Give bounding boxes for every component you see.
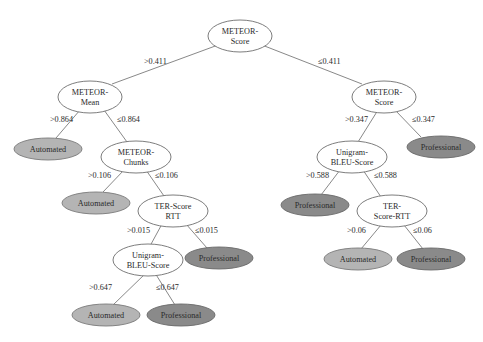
edge-label-bleur-left: >0.588	[306, 171, 329, 180]
edge-label-terr-left: >0.06	[347, 226, 366, 235]
svg-text:BLEU-Score: BLEU-Score	[127, 261, 170, 270]
leaf-professional-l3: Professional	[185, 247, 253, 269]
svg-text:Automated: Automated	[30, 145, 66, 154]
edge-label-mean-left: >0.864	[50, 115, 73, 124]
edge-label-bleur-right: ≤0.588	[374, 171, 397, 180]
leaf-automated-l4: Automated	[72, 304, 140, 326]
svg-text:Automated: Automated	[340, 255, 376, 264]
svg-text:Mean: Mean	[81, 98, 100, 107]
leaf-automated-2: Automated	[62, 192, 130, 214]
node-ter-score-rtt-right: TER- Score-RTT	[357, 195, 427, 227]
svg-text:METEOR-: METEOR-	[72, 88, 109, 97]
svg-text:BLEU-Score: BLEU-Score	[331, 158, 374, 167]
node-unigram-bleu-score-left: Unigram- BLEU-Score	[113, 244, 183, 276]
node-unigram-bleu-score-right: Unigram- BLEU-Score	[317, 141, 387, 173]
leaf-professional-l4: Professional	[147, 304, 215, 326]
svg-text:METEOR-: METEOR-	[366, 88, 403, 97]
edge-label-root-left: >0.411	[144, 57, 167, 66]
node-meteor-mean: METEOR- Mean	[58, 81, 122, 113]
svg-text:TER-Score: TER-Score	[155, 202, 192, 211]
leaf-professional-r2: Professional	[281, 194, 349, 216]
edge-label-chunks-left: >0.106	[88, 171, 111, 180]
svg-text:Professional: Professional	[161, 311, 202, 320]
svg-text:Score-RTT: Score-RTT	[374, 212, 410, 221]
leaf-professional-r1: Professional	[407, 136, 475, 158]
edge-label-terr-right: ≤0.06	[413, 226, 432, 235]
svg-text:Score: Score	[231, 37, 250, 46]
node-meteor-chunks: METEOR- Chunks	[101, 141, 171, 173]
svg-text:TER-: TER-	[383, 202, 401, 211]
edge-label-scorer-left: >0.347	[345, 115, 368, 124]
edge-label-root-right: ≤0.411	[318, 57, 341, 66]
edge-label-terl-right: ≤0.015	[195, 226, 218, 235]
node-root-meteor-score: METEOR- Score	[208, 20, 272, 52]
decision-tree-diagram: >0.411 ≤0.411 >0.864 ≤0.864 >0.106 ≤0.10…	[0, 0, 483, 342]
svg-text:Unigram-: Unigram-	[132, 251, 164, 260]
svg-text:METEOR-: METEOR-	[222, 27, 259, 36]
svg-text:Professional: Professional	[411, 255, 452, 264]
node-ter-score-rtt-left: TER-Score RTT	[138, 195, 208, 227]
leaf-professional-r4: Professional	[397, 248, 465, 270]
svg-text:Score: Score	[375, 98, 394, 107]
leaf-automated-1: Automated	[14, 138, 82, 160]
svg-text:Professional: Professional	[421, 143, 462, 152]
edge-label-mean-right: ≤0.864	[117, 115, 140, 124]
edge-label-terl-left: >0.015	[127, 226, 150, 235]
node-meteor-score-right: METEOR- Score	[352, 81, 416, 113]
edge-label-bleul-left: >0.647	[89, 283, 112, 292]
svg-text:Professional: Professional	[199, 254, 240, 263]
edge-label-bleul-right: ≤0.647	[156, 283, 179, 292]
svg-text:Unigram-: Unigram-	[336, 148, 368, 157]
svg-text:RTT: RTT	[166, 212, 181, 221]
svg-text:Professional: Professional	[295, 201, 336, 210]
svg-text:Automated: Automated	[78, 199, 114, 208]
edge-label-chunks-right: ≤0.106	[155, 171, 178, 180]
leaf-automated-r3: Automated	[324, 248, 392, 270]
svg-text:Chunks: Chunks	[123, 158, 148, 167]
svg-text:METEOR-: METEOR-	[118, 148, 155, 157]
svg-text:Automated: Automated	[88, 311, 124, 320]
edge-label-scorer-right: ≤0.347	[412, 115, 435, 124]
